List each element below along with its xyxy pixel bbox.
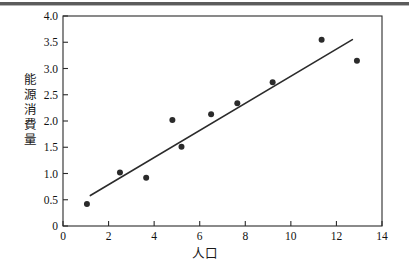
data-point [84, 201, 90, 207]
y-tick-label: 4.0 [44, 10, 58, 22]
y-tick-label: 3.0 [44, 63, 58, 75]
y-tick-label: 3.5 [44, 36, 58, 48]
data-point [234, 100, 240, 106]
x-tick-label: 8 [242, 230, 248, 242]
y-tick-label: 1.5 [44, 141, 58, 153]
plot-frame [63, 16, 382, 226]
data-point [208, 111, 214, 117]
x-tick-label: 10 [285, 230, 297, 242]
data-point [143, 175, 149, 181]
y-tick-label: 1.0 [44, 168, 58, 180]
data-point [319, 37, 325, 43]
x-axis-title: 人口 [0, 243, 409, 262]
y-axis-title: 能 源 消 費 量 [22, 72, 38, 147]
data-point [169, 117, 175, 123]
data-point [178, 144, 184, 150]
x-tick-label: 4 [151, 230, 157, 242]
x-tick-label: 12 [331, 230, 343, 242]
y-tick-label: 2.0 [44, 115, 58, 127]
x-tick-label: 6 [197, 230, 203, 242]
data-point [270, 79, 276, 85]
y-tick-label: 2.5 [44, 89, 58, 101]
scatter-chart-canvas [0, 0, 409, 267]
plot-area-border [63, 16, 382, 226]
y-tick-label: 0 [52, 220, 58, 232]
x-tick-label: 2 [106, 230, 112, 242]
y-tick-label: 0.5 [44, 194, 58, 206]
x-tick-label: 0 [60, 230, 66, 242]
data-point [354, 58, 360, 64]
chart-figure: 能 源 消 費 量 人口 00.51.01.52.02.53.03.54.002… [0, 0, 409, 267]
data-point [117, 169, 123, 175]
x-tick-label: 14 [376, 230, 388, 242]
